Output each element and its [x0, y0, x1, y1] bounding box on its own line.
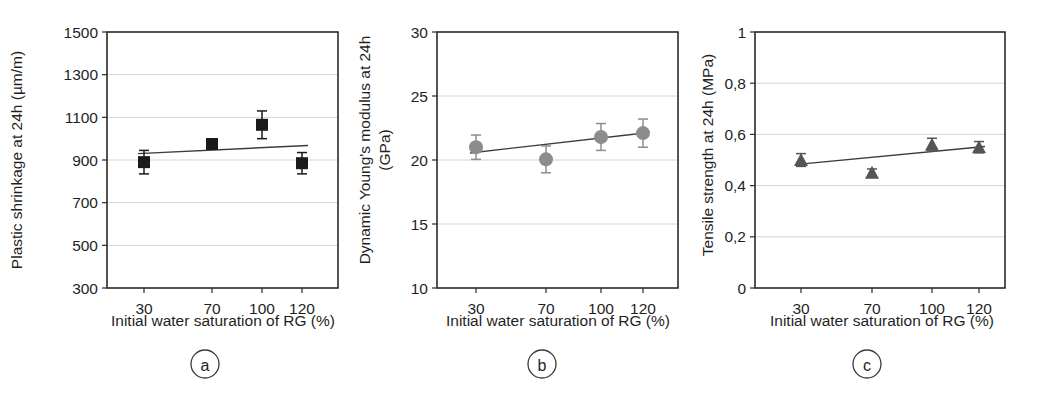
- data-point-marker: [256, 119, 268, 131]
- y-tick-label: 300: [72, 280, 98, 297]
- panel-c-gridlines: [755, 83, 1005, 237]
- y-tick-label: 10: [411, 280, 429, 297]
- y-tick-label: 900: [72, 152, 98, 169]
- panel-b: 1015202530 3070100120 Dynamic Young's mo…: [352, 0, 697, 395]
- panel-a: 300500700900110013001500 3070100120 Plas…: [0, 0, 352, 395]
- panel-c-y-axis-label: Tensile strength at 24h (MPa): [699, 54, 716, 256]
- panel-c-x-axis-label: Initial water saturation of RG (%): [770, 312, 994, 329]
- y-tick-label: 0: [737, 280, 746, 297]
- data-point-marker: [594, 130, 608, 144]
- data-point-marker: [794, 153, 808, 166]
- panel-a-ytick-labels: 300500700900110013001500: [64, 24, 99, 297]
- panel-a-trendline: [138, 145, 308, 153]
- y-tick-label: 25: [411, 88, 428, 105]
- data-point-marker: [469, 140, 483, 154]
- y-tick-label: 0,4: [724, 177, 746, 194]
- panel-c-letter: c: [863, 357, 871, 374]
- panel-a-ticks: [102, 32, 302, 293]
- panel-c-frame: [755, 32, 1005, 288]
- panel-b-plot: 1015202530 3070100120 Dynamic Young's mo…: [352, 0, 697, 395]
- y-tick-label: 0,2: [724, 228, 746, 245]
- figure-container: 300500700900110013001500 3070100120 Plas…: [0, 0, 1049, 395]
- panel-b-y-axis-label-line2: (GPa): [376, 129, 393, 170]
- panel-b-y-axis-label-line1: Dynamic Young's modulus at 24h: [356, 36, 373, 265]
- data-point-marker: [206, 138, 218, 150]
- panel-c-trendline: [795, 146, 985, 164]
- panel-a-y-axis-label: Plastic shrinkage at 24h (µm/m): [8, 51, 25, 269]
- data-point-marker: [865, 166, 879, 179]
- y-tick-label: 15: [411, 216, 428, 233]
- panel-b-data-series: [469, 119, 650, 173]
- panel-b-x-axis-label: Initial water saturation of RG (%): [446, 312, 670, 329]
- data-point-marker: [138, 156, 150, 168]
- panel-c-ticks: [750, 32, 979, 293]
- panel-c-ytick-labels: 00,20,40,60,81: [724, 24, 746, 297]
- y-tick-label: 0,8: [724, 75, 746, 92]
- y-tick-label: 1300: [64, 66, 99, 83]
- y-tick-label: 20: [411, 152, 429, 169]
- y-tick-label: 1500: [64, 24, 99, 41]
- y-tick-label: 30: [411, 24, 429, 41]
- data-point-marker: [925, 138, 939, 151]
- y-tick-label: 0,6: [724, 126, 746, 143]
- panel-a-x-axis-label: Initial water saturation of RG (%): [111, 312, 335, 329]
- panel-a-letter: a: [201, 357, 210, 374]
- panel-c: 00,20,40,60,81 3070100120 Tensile streng…: [697, 0, 1049, 395]
- y-tick-label: 700: [72, 194, 98, 211]
- y-tick-label: 500: [72, 237, 98, 254]
- panel-c-plot: 00,20,40,60,81 3070100120 Tensile streng…: [697, 0, 1049, 395]
- y-tick-label: 1100: [65, 109, 99, 126]
- panel-b-letter: b: [538, 357, 547, 374]
- data-point-marker: [296, 157, 308, 169]
- data-point-marker: [539, 152, 553, 166]
- panel-a-data-series: [138, 111, 308, 174]
- y-tick-label: 1: [737, 24, 746, 41]
- panel-a-plot: 300500700900110013001500 3070100120 Plas…: [0, 0, 352, 395]
- data-point-marker: [636, 126, 650, 140]
- panel-b-ticks: [432, 32, 643, 293]
- panel-b-ytick-labels: 1015202530: [411, 24, 429, 297]
- panel-c-data-series: [794, 138, 986, 179]
- panel-b-trendline: [470, 132, 649, 152]
